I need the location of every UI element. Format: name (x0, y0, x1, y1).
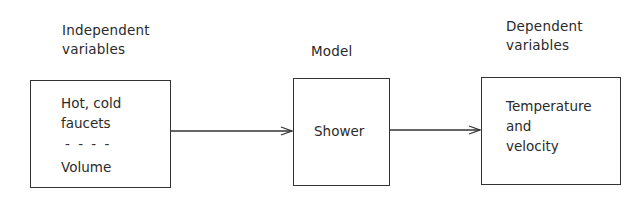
dependent-variables-box: Temperature and velocity (481, 77, 621, 185)
model-box: Shower (293, 78, 390, 186)
shower-label: Shower (314, 121, 364, 141)
separator-dashes: - - - - (65, 136, 111, 152)
temperature-label: Temperature (506, 96, 592, 116)
velocity-label: velocity (506, 136, 592, 156)
volume-label: Volume (61, 157, 111, 177)
faucets-label-cont: faucets (61, 113, 121, 133)
faucets-label: Hot, cold (61, 93, 121, 113)
and-label: and (506, 116, 592, 136)
independent-variables-box: Hot, cold faucets - - - - Volume (30, 80, 171, 188)
